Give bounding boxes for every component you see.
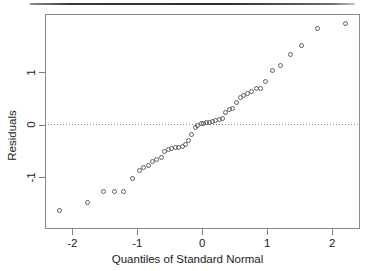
x-axis-tick [267, 229, 268, 235]
x-axis-tick [137, 229, 138, 235]
data-point [121, 189, 126, 194]
y-axis-tick-label: 0 [23, 118, 39, 131]
x-axis-tick-label: 0 [187, 237, 217, 250]
y-axis-tick [39, 125, 45, 126]
qq-plot-figure: -101 -2-1012 Residuals Quantiles of Stan… [0, 0, 375, 271]
page-top-rule [30, 3, 355, 5]
x-axis-title: Quantiles of Standard Normal [0, 253, 375, 266]
y-axis-tick-label: 1 [23, 66, 39, 79]
data-point [299, 43, 304, 48]
y-axis-tick-label: -1 [23, 171, 39, 184]
x-axis-title-text: Quantiles of Standard Normal [112, 253, 264, 265]
data-point [146, 163, 151, 168]
data-point [343, 21, 348, 26]
y-axis-tick-label-text: 0 [25, 121, 38, 127]
x-axis-tick-label: -2 [57, 237, 87, 250]
x-axis-tick-label: 2 [317, 237, 347, 250]
data-point [57, 208, 62, 213]
x-axis-tick [202, 229, 203, 235]
data-point [130, 176, 135, 181]
y-axis-title-text: Residuals [6, 110, 19, 161]
y-axis-tick-label-text: 1 [25, 69, 38, 75]
data-point [263, 79, 268, 84]
x-axis-tick [72, 229, 73, 235]
y-axis-tick [39, 177, 45, 178]
y-axis-title: Residuals [4, 0, 20, 271]
data-point [159, 155, 164, 160]
x-axis-tick-label: -1 [122, 237, 152, 250]
data-point [85, 200, 90, 205]
data-point [234, 100, 239, 105]
data-point [288, 52, 293, 57]
x-axis-tick-label: 1 [252, 237, 282, 250]
y-axis-tick [39, 72, 45, 73]
y-axis-tick-label-text: -1 [24, 172, 37, 182]
data-point [315, 26, 320, 31]
x-axis-tick [332, 229, 333, 235]
